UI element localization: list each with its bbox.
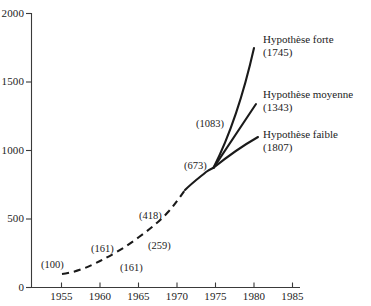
y-axis-ticks: [26, 14, 31, 288]
data-label-418: (418): [139, 210, 162, 221]
series-name-faible: Hypothèse faible: [263, 128, 338, 141]
chart-figure: 2000 1500 1000 500 0 1955 1960 1965 1970…: [0, 0, 371, 306]
data-label-161-a: (161): [91, 243, 114, 254]
x-tick-label-1980: 1980: [234, 291, 274, 302]
series-line-hypothese-forte: [214, 48, 255, 168]
series-name-forte: Hypothèse forte: [263, 33, 334, 46]
x-axis-ticks: [62, 283, 293, 288]
x-tick-label-1960: 1960: [80, 291, 120, 302]
series-name-moyenne: Hypothèse moyenne: [263, 88, 353, 101]
series-label-hypothese-faible: Hypothèse faible (1807): [263, 128, 338, 153]
data-label-1083: (1083): [196, 118, 224, 129]
series-value-moyenne: (1343): [263, 101, 353, 114]
x-tick-label-1985: 1985: [273, 291, 313, 302]
y-tick-label-1000: 1000: [0, 145, 24, 156]
series-value-faible: (1807): [263, 141, 338, 154]
y-tick-label-500: 500: [0, 213, 24, 224]
data-label-100: (100): [41, 259, 64, 270]
x-tick-label-1955: 1955: [42, 291, 82, 302]
data-label-673: (673): [184, 160, 207, 171]
y-tick-label-1500: 1500: [0, 76, 24, 87]
series-value-forte: (1745): [263, 46, 334, 59]
x-tick-label-1975: 1975: [196, 291, 236, 302]
y-tick-label-2000: 2000: [0, 8, 24, 19]
y-tick-label-0: 0: [0, 282, 24, 293]
series-label-hypothese-forte: Hypothèse forte (1745): [263, 33, 334, 58]
data-label-259: (259): [148, 240, 171, 251]
x-tick-label-1965: 1965: [119, 291, 159, 302]
data-label-161-b: (161): [120, 262, 143, 273]
x-tick-label-1970: 1970: [157, 291, 197, 302]
series-label-hypothese-moyenne: Hypothèse moyenne (1343): [263, 88, 353, 113]
history-solid-curve: [185, 168, 214, 190]
